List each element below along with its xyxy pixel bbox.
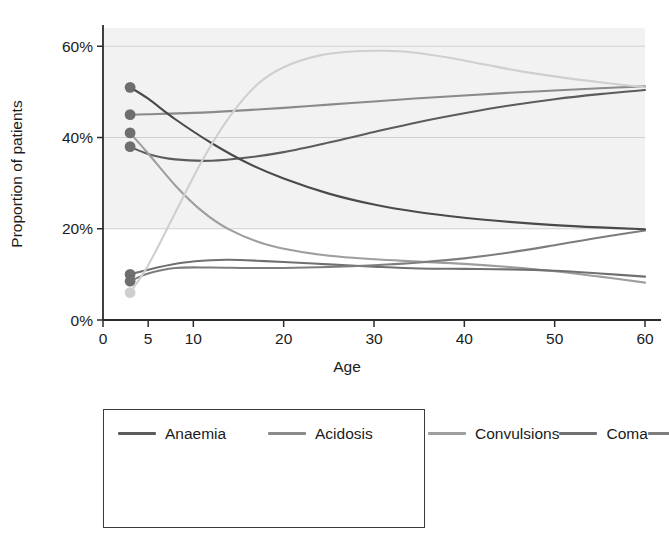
y-tick-label: 20% <box>62 220 93 237</box>
y-tick-label: 60% <box>62 38 93 55</box>
legend-swatch-icon <box>118 432 156 435</box>
legend-item-label: Anaemia <box>165 426 226 442</box>
x-tick-label: 10 <box>185 330 203 347</box>
x-tick-label: 40 <box>456 330 474 347</box>
series-marker-convulsions <box>125 128 136 139</box>
legend-item-label: Convulsions <box>475 426 559 442</box>
series-marker-jaundice <box>125 287 136 298</box>
chart-legend: AnaemiaAcidosisConvulsionsComaShockRenal… <box>103 409 425 528</box>
legend-item-anaemia[interactable]: Anaemia <box>118 421 268 446</box>
legend-swatch-icon <box>559 432 597 435</box>
x-tick-label: 60 <box>636 330 654 347</box>
legend-swatch-icon <box>268 432 306 435</box>
x-axis-title: Age <box>333 358 361 375</box>
line-chart: 0%20%40%60%05102030405060 Age Proportion… <box>0 0 669 400</box>
series-marker-renal-failure <box>125 82 136 93</box>
plot-background <box>103 28 645 229</box>
legend-item-convulsions[interactable]: Convulsions <box>428 421 559 446</box>
chart-canvas: 0%20%40%60%05102030405060 Age Proportion… <box>0 0 669 400</box>
legend-item-shock[interactable]: Shock <box>648 421 669 446</box>
x-tick-label: 30 <box>365 330 383 347</box>
y-tick-label: 40% <box>62 129 93 146</box>
x-tick-label: 5 <box>144 330 153 347</box>
legend-item-label: Coma <box>606 426 647 442</box>
legend-swatch-icon <box>428 432 466 435</box>
legend-item-label: Acidosis <box>315 426 373 442</box>
x-tick-label: 20 <box>275 330 293 347</box>
legend-item-acidosis[interactable]: Acidosis <box>268 421 428 446</box>
y-axis-title: Proportion of patients <box>8 100 25 248</box>
legend-swatch-icon <box>648 432 669 435</box>
series-marker-shock <box>125 276 136 287</box>
legend-items: AnaemiaAcidosisConvulsionsComaShockRenal… <box>118 421 669 446</box>
y-tick-label: 0% <box>71 312 94 329</box>
series-marker-acidosis <box>125 109 136 120</box>
legend-item-coma[interactable]: Coma <box>559 421 647 446</box>
chart-figure: 0%20%40%60%05102030405060 Age Proportion… <box>0 0 669 547</box>
x-tick-label: 50 <box>546 330 564 347</box>
plot-shaded-band <box>103 28 645 229</box>
series-marker-anaemia <box>125 141 136 152</box>
x-tick-label: 0 <box>99 330 108 347</box>
